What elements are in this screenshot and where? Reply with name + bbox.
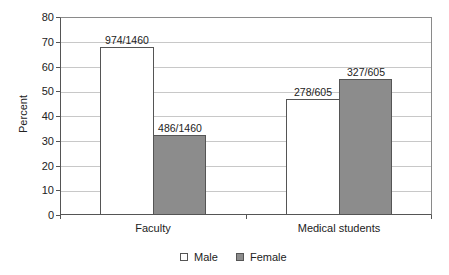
x-tickmark [431, 215, 432, 219]
x-label-medical-students: Medical students [269, 222, 409, 234]
label-faculty-male: 974/1460 [92, 34, 162, 46]
y-tick-20: 20 [30, 160, 54, 172]
label-students-male: 278/605 [278, 86, 348, 98]
y-tick-0: 0 [30, 209, 54, 221]
legend-item-female: Female [236, 251, 287, 263]
y-tick-50: 50 [30, 85, 54, 97]
x-label-faculty: Faculty [83, 222, 223, 234]
label-students-female: 327/605 [331, 66, 401, 78]
y-tick-60: 60 [30, 61, 54, 73]
y-axis-label: Percent [17, 89, 29, 139]
x-tickmark [246, 215, 247, 219]
bar-students-male [286, 99, 340, 215]
legend-swatch-female [236, 253, 244, 261]
y-tick-30: 30 [30, 135, 54, 147]
bar-faculty-female [153, 135, 206, 215]
x-tickmark [60, 215, 61, 219]
y-tick-70: 70 [30, 36, 54, 48]
bar-students-female [339, 79, 392, 215]
label-faculty-female: 486/1460 [145, 122, 215, 134]
legend-item-male: Male [180, 251, 218, 263]
y-tick-10: 10 [30, 184, 54, 196]
legend-label-male: Male [194, 251, 218, 263]
legend-swatch-male [180, 253, 188, 261]
y-tick-40: 40 [30, 110, 54, 122]
legend-label-female: Female [250, 251, 287, 263]
y-tick-80: 80 [30, 11, 54, 23]
